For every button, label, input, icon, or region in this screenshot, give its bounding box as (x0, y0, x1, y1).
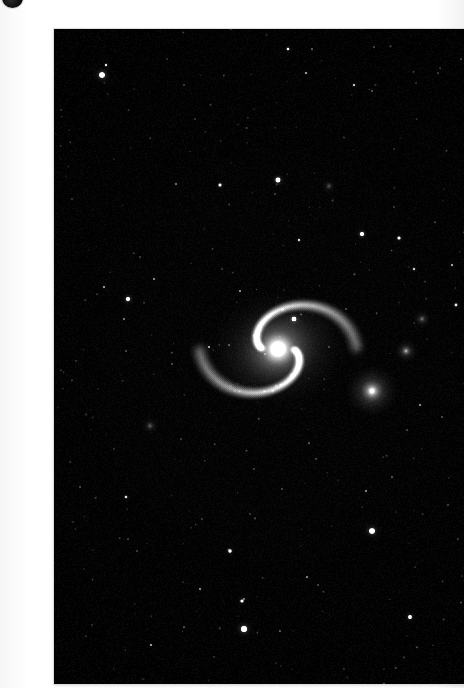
document-page (0, 0, 464, 688)
figure-caption (18, 674, 448, 686)
page-corner-badge-icon (2, 0, 23, 8)
astronomy-photo-plate (54, 29, 464, 684)
galaxy-sky-canvas (54, 29, 464, 684)
